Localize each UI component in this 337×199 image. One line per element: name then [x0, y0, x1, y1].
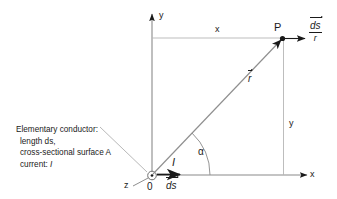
caption-line-4: current: I	[16, 159, 111, 171]
ds-over-r-numerator-text: ds	[310, 20, 321, 31]
caption-line-4-prefix: current:	[20, 160, 50, 169]
ds-over-r-denominator: r	[309, 33, 322, 43]
y-dimension-label: y	[289, 118, 294, 129]
caption-line-2: length ds,	[16, 136, 111, 148]
ds-vector-label: ds	[166, 180, 177, 192]
current-out-of-page-dot-icon	[151, 174, 154, 177]
r-vector-label-text: r	[248, 73, 251, 84]
ds-vector-label-text: ds	[166, 180, 177, 191]
point-p-label: P	[274, 21, 281, 34]
vector-arrow-accent-ds	[166, 177, 178, 178]
caption-line-3: cross-sectional surface A	[16, 147, 111, 159]
vector-arrow-accent-r	[248, 70, 252, 71]
r-vector-label: r	[248, 73, 251, 85]
vector-arrow-accent-dsr	[310, 17, 322, 18]
angle-alpha-label: α	[198, 146, 204, 158]
x-axis-label: x	[310, 169, 315, 180]
conductor-caption: Elementary conductor: length ds, cross-s…	[16, 124, 111, 171]
x-dimension-label: x	[215, 24, 220, 35]
ds-over-r-label: ds r	[309, 20, 322, 43]
caption-line-1: Elementary conductor:	[16, 124, 111, 136]
ds-over-r-numerator: ds	[309, 20, 322, 31]
caption-line-4-symbol: I	[50, 160, 52, 169]
r-vector-arrow	[153, 40, 281, 174]
current-label: I	[172, 156, 175, 169]
figure-canvas: y x z 0 x y P α r I ds ds r Elementa	[0, 0, 337, 199]
origin-label: 0	[147, 181, 153, 193]
z-axis-label: z	[124, 180, 129, 191]
y-axis-label: y	[159, 10, 164, 21]
